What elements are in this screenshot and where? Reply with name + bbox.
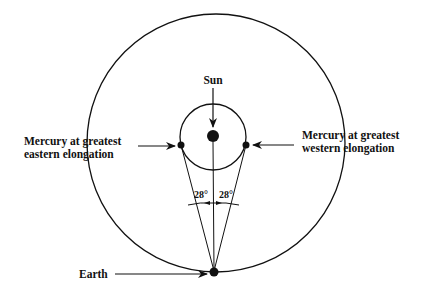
sun-icon [207,130,219,142]
elongation-diagram: Sun 28° 28° Mercury at greatest eastern … [0,0,432,298]
sightline-east [181,145,214,271]
west-label-line1: Mercury at greatest [302,129,399,142]
angle-label-right: 28° [219,189,233,200]
sightline-west [214,145,246,271]
mercury-east-icon [178,142,185,149]
west-label-line2: western elongation [302,142,395,155]
earth-label: Earth [79,268,108,280]
east-label-line2: eastern elongation [24,148,114,161]
mercury-west-icon [243,142,250,149]
sun-earth-line [213,142,214,271]
earth-icon [210,268,219,277]
east-label-line1: Mercury at greatest [24,135,121,148]
angle-label-left: 28° [194,189,208,200]
sun-label: Sun [203,74,223,86]
